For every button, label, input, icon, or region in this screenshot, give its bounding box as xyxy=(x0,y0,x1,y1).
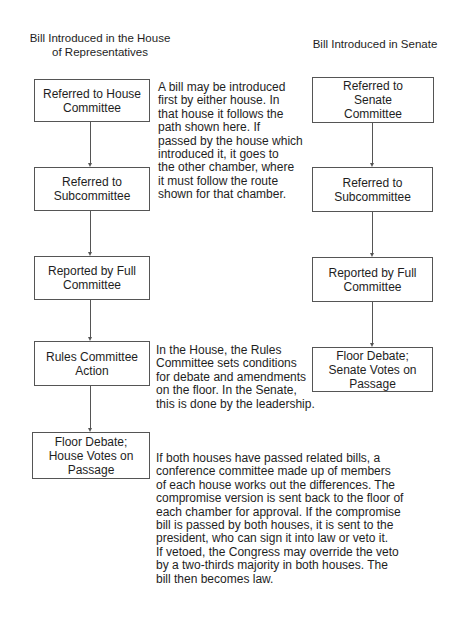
senate-step-label: Floor Debate; Senate Votes on Passage xyxy=(328,349,416,391)
senate-connector-3 xyxy=(372,302,373,343)
house-connector-1 xyxy=(90,122,91,163)
arrow-down-icon xyxy=(88,337,92,341)
house-step-full-committee: Reported by Full Committee xyxy=(34,256,150,300)
house-step-label: Referred to House Committee xyxy=(43,87,141,115)
arrow-down-icon xyxy=(370,163,374,167)
senate-connector-2 xyxy=(372,212,373,253)
house-step-label: Referred to Subcommittee xyxy=(54,175,131,203)
arrow-down-icon xyxy=(88,163,92,167)
senate-step-floor-debate: Floor Debate; Senate Votes on Passage xyxy=(312,347,433,392)
house-step-label: Floor Debate; House Votes on Passage xyxy=(49,435,134,477)
senate-step-referred-committee: Referred to Senate Committee xyxy=(312,77,434,123)
arrow-down-icon xyxy=(370,343,374,347)
house-step-label: Rules Committee Action xyxy=(46,350,138,378)
rules-note: In the House, the Rules Committee sets c… xyxy=(156,344,316,411)
senate-step-label: Referred to Subcommittee xyxy=(334,176,411,204)
house-step-floor-debate: Floor Debate; House Votes on Passage xyxy=(32,432,150,479)
house-step-label: Reported by Full Committee xyxy=(48,264,136,292)
house-heading: Bill Introduced in the House of Represen… xyxy=(24,31,176,59)
arrow-down-icon xyxy=(88,428,92,432)
house-step-rules-committee: Rules Committee Action xyxy=(34,341,150,386)
senate-step-subcommittee: Referred to Subcommittee xyxy=(312,167,433,212)
senate-step-full-committee: Reported by Full Committee xyxy=(312,257,433,302)
arrow-down-icon xyxy=(370,253,374,257)
house-step-subcommittee: Referred to Subcommittee xyxy=(34,167,150,211)
house-connector-4 xyxy=(90,386,91,428)
senate-step-label: Reported by Full Committee xyxy=(328,266,416,294)
senate-step-label: Referred to Senate Committee xyxy=(343,79,403,121)
house-step-referred-committee: Referred to House Committee xyxy=(34,79,150,122)
arrow-down-icon xyxy=(88,252,92,256)
house-connector-3 xyxy=(90,300,91,337)
senate-heading: Bill Introduced in Senate xyxy=(305,37,445,51)
house-connector-2 xyxy=(90,211,91,252)
introduction-note: A bill may be introduced first by either… xyxy=(158,81,308,202)
conference-note: If both houses have passed related bills… xyxy=(156,452,456,586)
senate-connector-1 xyxy=(372,123,373,163)
